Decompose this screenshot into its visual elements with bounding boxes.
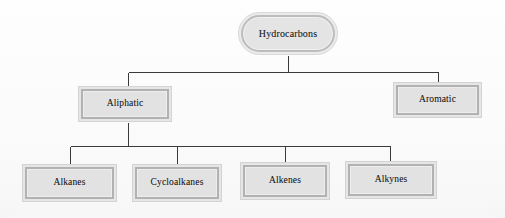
node-aliphatic-label: Aliphatic xyxy=(107,99,144,109)
node-cycloalkanes-label: Cycloalkanes xyxy=(151,178,204,188)
node-aliphatic[interactable]: Aliphatic xyxy=(78,86,172,122)
node-alkynes[interactable]: Alkynes xyxy=(345,161,437,199)
node-hydrocarbons[interactable]: Hydrocarbons xyxy=(238,12,338,55)
node-alkanes-inner: Alkanes xyxy=(25,167,114,199)
node-hydrocarbons-inner: Hydrocarbons xyxy=(241,15,335,52)
node-alkynes-inner: Alkynes xyxy=(348,164,434,196)
node-aromatic-inner: Aromatic xyxy=(396,85,479,115)
node-alkanes[interactable]: Alkanes xyxy=(22,164,117,202)
node-alkenes-inner: Alkenes xyxy=(243,165,327,197)
hydrocarbons-classification-diagram: Hydrocarbons Aliphatic Aromatic Alkanes … xyxy=(0,0,505,218)
node-alkenes[interactable]: Alkenes xyxy=(240,162,330,200)
node-aromatic-label: Aromatic xyxy=(419,95,456,105)
node-alkenes-label: Alkenes xyxy=(269,176,301,186)
node-aromatic[interactable]: Aromatic xyxy=(393,82,482,118)
node-cycloalkanes-inner: Cycloalkanes xyxy=(135,167,219,199)
node-alkanes-label: Alkanes xyxy=(53,178,85,188)
node-cycloalkanes[interactable]: Cycloalkanes xyxy=(132,164,222,202)
node-aliphatic-inner: Aliphatic xyxy=(81,89,169,119)
node-hydrocarbons-label: Hydrocarbons xyxy=(259,29,317,39)
node-alkynes-label: Alkynes xyxy=(375,175,408,185)
